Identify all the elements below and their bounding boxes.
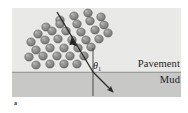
dot (34, 30, 43, 38)
refraction-figure: Pavement Mud θ1 a (0, 0, 188, 113)
dot (84, 9, 93, 17)
dot (32, 61, 41, 69)
figure-canvas (0, 0, 188, 113)
dot (39, 52, 48, 60)
dot (60, 60, 69, 68)
dot (70, 12, 79, 20)
dot (66, 52, 75, 60)
dot (95, 35, 104, 43)
dot (46, 60, 55, 68)
theta-subscript: 1 (98, 65, 101, 72)
dot (25, 53, 34, 61)
dot (73, 60, 82, 68)
mud-label: Mud (160, 75, 180, 86)
angle-theta-label: θ1 (93, 61, 101, 72)
dot (100, 21, 109, 29)
dot (77, 28, 86, 36)
dot (104, 29, 113, 37)
dot (48, 27, 57, 35)
dot (87, 43, 96, 51)
dot (27, 38, 36, 46)
dot (73, 20, 82, 28)
dot (41, 36, 50, 44)
dot (91, 26, 100, 34)
dot (53, 52, 62, 60)
dot (86, 17, 95, 25)
pavement-label: Pavement (138, 59, 180, 70)
dot (54, 35, 63, 43)
dot (82, 36, 91, 44)
figure-caption-mark: a (14, 100, 17, 106)
dot (32, 46, 41, 54)
dot (60, 44, 69, 52)
dot (97, 13, 106, 21)
dot (46, 44, 55, 52)
